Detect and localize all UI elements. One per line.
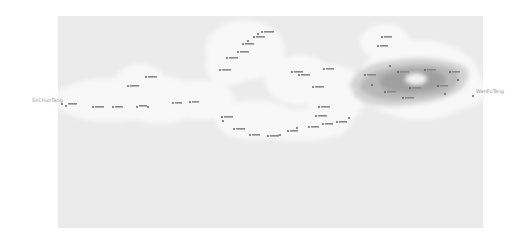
endpoint-label-end: WanFuTang — [476, 88, 504, 94]
cluster-hole — [405, 73, 427, 85]
endpoint-label-start: SeChunTang — [32, 97, 63, 103]
map-canvas — [0, 0, 530, 240]
